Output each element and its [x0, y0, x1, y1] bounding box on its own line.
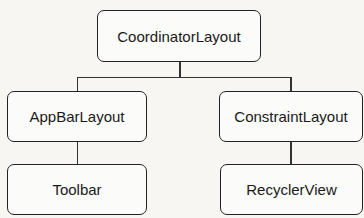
node-coordinatorlayout: CoordinatorLayout — [97, 10, 261, 62]
connector-right-down — [290, 77, 292, 91]
node-label: ConstraintLayout — [234, 108, 347, 125]
connector-left-down — [77, 77, 79, 91]
node-recyclerview: RecyclerView — [220, 164, 363, 215]
node-constraintlayout: ConstraintLayout — [219, 91, 363, 142]
node-appbarlayout: AppBarLayout — [7, 91, 147, 142]
node-label: AppBarLayout — [29, 108, 124, 125]
connector-constraint-recycler — [290, 142, 292, 164]
node-label: CoordinatorLayout — [117, 28, 240, 45]
node-label: Toolbar — [52, 181, 101, 198]
connector-appbar-toolbar — [77, 142, 79, 164]
node-toolbar: Toolbar — [7, 164, 147, 215]
connector-horizontal — [77, 77, 291, 79]
node-label: RecyclerView — [246, 181, 337, 198]
